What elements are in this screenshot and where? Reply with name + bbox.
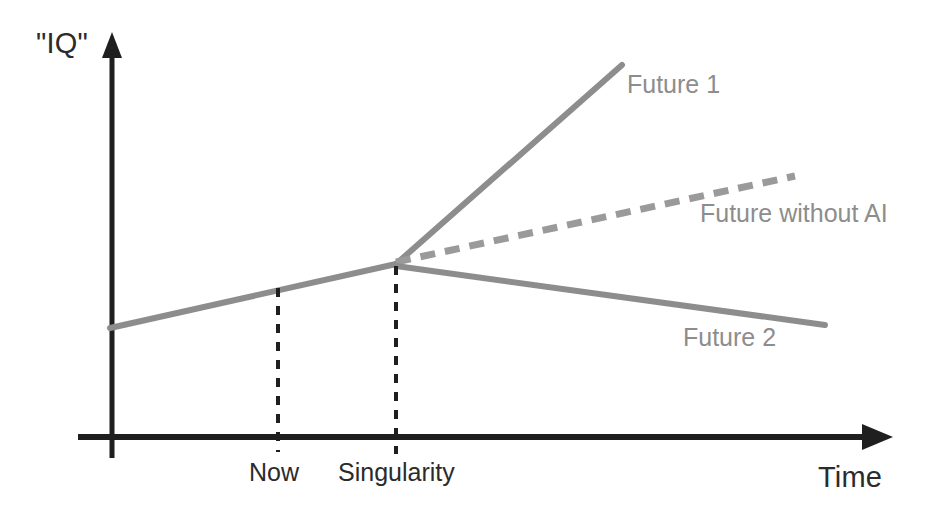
series-label-future-2: Future 2: [683, 323, 776, 352]
series-line-historical: [110, 264, 396, 328]
series-label-future-1: Future 1: [627, 70, 720, 99]
singularity-chart: "IQ" Time Now Singularity Future 1 Futur…: [0, 0, 925, 529]
series-line-future-2: [396, 266, 825, 325]
tick-label-singularity: Singularity: [338, 458, 455, 487]
y-axis-label: "IQ": [36, 27, 88, 60]
series-line-future-1: [396, 65, 622, 264]
series-label-future-without-ai: Future without AI: [700, 199, 888, 228]
chart-canvas: [0, 0, 925, 529]
x-axis-label: Time: [818, 461, 882, 494]
tick-label-now: Now: [249, 458, 299, 487]
x-axis-arrowhead: [862, 424, 893, 450]
y-axis-arrowhead: [102, 32, 122, 58]
